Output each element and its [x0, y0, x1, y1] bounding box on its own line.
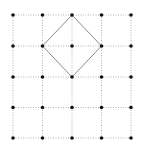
grid-dot	[11, 136, 15, 140]
grid-dot	[129, 44, 133, 48]
grid-dot	[70, 13, 74, 17]
grid-dot	[41, 13, 45, 17]
grid-dot	[100, 75, 104, 79]
grid-dot	[70, 106, 74, 110]
grid-dot	[11, 13, 15, 17]
grid-dot	[41, 75, 45, 79]
dot-grid-diagram	[0, 0, 141, 149]
grid-dot	[70, 136, 74, 140]
grid-dot	[100, 44, 104, 48]
grid-dot	[100, 136, 104, 140]
grid-dot	[129, 136, 133, 140]
grid-dot	[11, 75, 15, 79]
grid-dot	[41, 136, 45, 140]
grid-dot	[41, 44, 45, 48]
grid-dot	[11, 106, 15, 110]
grid-dot	[70, 75, 74, 79]
grid-dot	[11, 44, 15, 48]
grid-dot	[129, 75, 133, 79]
grid-dot	[100, 106, 104, 110]
grid-dot	[129, 106, 133, 110]
grid-dot	[100, 13, 104, 17]
grid-dot	[129, 13, 133, 17]
grid-dot	[70, 44, 74, 48]
grid-dot	[41, 106, 45, 110]
